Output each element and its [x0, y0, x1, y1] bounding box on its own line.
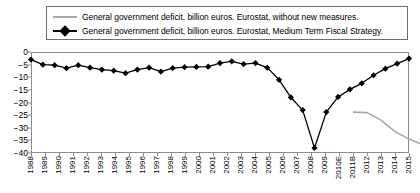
x-tick-mark — [73, 153, 74, 156]
plot-area-wrapper: 0−5−10−15−20−25−30−35−40 198819891990199… — [0, 44, 420, 193]
x-tick-label: 2007 — [293, 156, 301, 174]
y-tick-label: −5 — [18, 60, 28, 70]
x-tick-mark — [185, 153, 186, 156]
data-point-marker — [122, 70, 128, 76]
x-tick-label: 2013 — [377, 156, 385, 174]
legend-item-without-new-measures: General government deficit, billion euro… — [52, 10, 402, 24]
data-point-marker — [217, 60, 223, 66]
x-tick-mark — [213, 153, 214, 156]
data-point-marker — [170, 65, 176, 71]
data-point-marker — [28, 56, 34, 62]
x-tick-mark — [339, 153, 340, 156]
x-tick-label: 2002 — [223, 156, 231, 174]
x-tick-mark — [115, 153, 116, 156]
x-tick-label: 1989 — [41, 156, 49, 174]
legend-swatch-black-diamond-line — [52, 25, 78, 37]
y-tick-label: −10 — [14, 72, 28, 82]
x-tick-label: 1992 — [83, 156, 91, 174]
data-point-marker — [134, 67, 140, 73]
x-tick-mark — [255, 153, 256, 156]
x-tick-label: 1998 — [167, 156, 175, 174]
x-tick-mark — [395, 153, 396, 156]
x-tick-label: 2015 — [405, 156, 413, 174]
x-tick-label: 2011B — [349, 156, 357, 179]
data-point-marker — [63, 65, 69, 71]
x-tick-label: 2008 — [307, 156, 315, 174]
x-tick-mark — [45, 153, 46, 156]
data-point-marker — [87, 65, 93, 71]
x-tick-label: 2009 — [321, 156, 329, 174]
x-tick-label: 2001 — [209, 156, 217, 174]
data-point-marker — [241, 61, 247, 67]
data-point-marker — [158, 69, 164, 75]
data-point-marker — [311, 145, 317, 151]
legend-label-1: General government deficit, billion euro… — [82, 26, 383, 37]
x-tick-mark — [311, 153, 312, 156]
series-canvas — [31, 52, 409, 153]
data-point-marker — [181, 64, 187, 70]
x-tick-label: 2003 — [237, 156, 245, 174]
x-tick-mark — [325, 153, 326, 156]
diamond-marker-icon — [59, 25, 70, 36]
legend-item-medium-term-fiscal-strategy: General government deficit, billion euro… — [52, 24, 402, 38]
y-tick-label: −30 — [14, 123, 28, 133]
x-tick-label: 1993 — [97, 156, 105, 174]
chart-root: General government deficit, billion euro… — [0, 0, 420, 193]
series-line — [31, 59, 409, 148]
x-tick-label: 1988 — [27, 156, 35, 174]
y-tick-label: −20 — [14, 98, 28, 108]
data-point-marker — [229, 58, 235, 64]
x-tick-mark — [269, 153, 270, 156]
x-tick-mark — [87, 153, 88, 156]
chart-legend: General government deficit, billion euro… — [46, 6, 408, 40]
data-point-marker — [146, 65, 152, 71]
data-point-marker — [40, 62, 46, 68]
x-tick-label: 1994 — [111, 156, 119, 174]
x-tick-label: 1997 — [153, 156, 161, 174]
x-tick-mark — [409, 153, 410, 156]
x-tick-mark — [353, 153, 354, 156]
x-tick-mark — [157, 153, 158, 156]
x-tick-mark — [31, 153, 32, 156]
x-tick-mark — [129, 153, 130, 156]
x-tick-mark — [241, 153, 242, 156]
x-tick-label: 2000 — [195, 156, 203, 174]
x-tick-label: 2006 — [279, 156, 287, 174]
data-point-marker — [252, 60, 258, 66]
x-tick-mark — [297, 153, 298, 156]
x-tick-mark — [283, 153, 284, 156]
x-tick-label: 1991 — [69, 156, 77, 174]
x-tick-label: 2014 — [391, 156, 399, 174]
x-tick-mark — [199, 153, 200, 156]
data-point-marker — [111, 68, 117, 74]
x-tick-label: 2010E — [335, 156, 343, 179]
x-axis: 1988198919901991199219931994199519961997… — [31, 154, 409, 193]
legend-label-0: General government deficit, billion euro… — [82, 12, 358, 23]
x-tick-mark — [171, 153, 172, 156]
x-tick-label: 2012 — [363, 156, 371, 174]
data-point-marker — [205, 64, 211, 70]
x-tick-label: 1995 — [125, 156, 133, 174]
series-line — [353, 112, 420, 145]
x-tick-label: 1996 — [139, 156, 147, 174]
data-point-marker — [394, 61, 400, 67]
data-point-marker — [406, 55, 412, 61]
legend-swatch-gray-line — [52, 11, 78, 23]
x-tick-mark — [367, 153, 368, 156]
data-point-marker — [75, 62, 81, 68]
x-tick-mark — [143, 153, 144, 156]
y-axis: 0−5−10−15−20−25−30−35−40 — [0, 52, 28, 153]
y-tick-label: −15 — [14, 85, 28, 95]
x-tick-mark — [381, 153, 382, 156]
y-tick-label: −25 — [14, 110, 28, 120]
x-tick-mark — [101, 153, 102, 156]
x-tick-mark — [227, 153, 228, 156]
x-tick-label: 1999 — [181, 156, 189, 174]
x-tick-label: 2005 — [265, 156, 273, 174]
data-point-marker — [193, 64, 199, 70]
x-tick-label: 1990 — [55, 156, 63, 174]
data-point-marker — [52, 62, 58, 68]
data-point-marker — [382, 66, 388, 72]
data-point-marker — [347, 86, 353, 92]
x-tick-label: 2004 — [251, 156, 259, 174]
